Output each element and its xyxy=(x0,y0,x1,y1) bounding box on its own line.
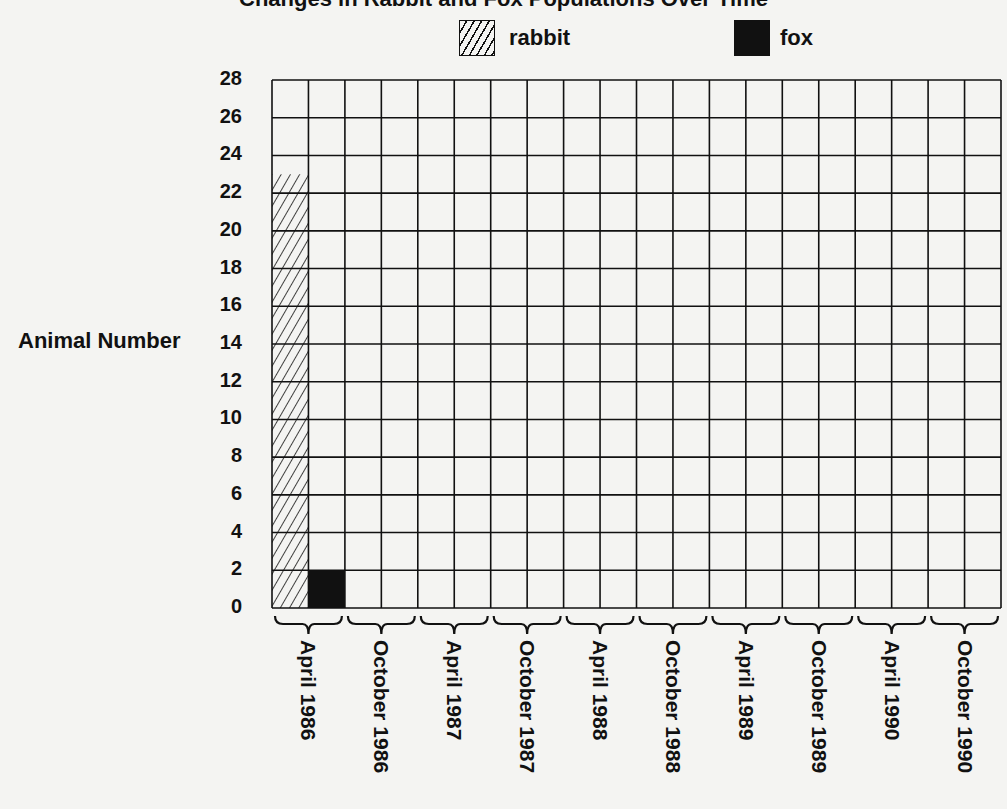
y-tick-label: 12 xyxy=(220,370,242,390)
x-tick-label: April 1989 xyxy=(734,640,758,740)
legend-fox: fox xyxy=(734,20,813,56)
x-tick-label: April 1986 xyxy=(296,640,320,740)
brace xyxy=(785,616,852,634)
brace xyxy=(567,616,634,634)
x-axis-braces xyxy=(0,612,1007,652)
x-tick-label: October 1989 xyxy=(807,640,831,773)
brace xyxy=(348,616,415,634)
x-tick-label: April 1988 xyxy=(588,640,612,740)
chart-title-cutoff: Changes in Rabbit and Fox Populations Ov… xyxy=(0,0,1007,12)
brace xyxy=(712,616,779,634)
y-tick-label: 10 xyxy=(220,407,242,427)
grid-lines xyxy=(272,80,1001,608)
hatched-swatch-icon xyxy=(459,20,495,56)
brace xyxy=(421,616,488,634)
x-tick-label: October 1990 xyxy=(953,640,977,773)
y-tick-label: 6 xyxy=(231,483,242,503)
brace xyxy=(494,616,561,634)
x-tick-label: October 1986 xyxy=(369,640,393,773)
x-tick-label: October 1987 xyxy=(515,640,539,773)
legend-rabbit: rabbit xyxy=(459,20,570,56)
brace xyxy=(275,616,342,634)
y-tick-label: 14 xyxy=(220,332,242,352)
y-tick-label: 18 xyxy=(220,257,242,277)
x-tick-label: October 1988 xyxy=(661,640,685,773)
y-tick-label: 16 xyxy=(220,294,242,314)
bar-fox xyxy=(308,570,344,608)
plot-area xyxy=(271,79,1002,609)
y-tick-label: 4 xyxy=(231,521,242,541)
brace xyxy=(858,616,925,634)
y-tick-label: 26 xyxy=(220,106,242,126)
brace xyxy=(931,616,998,634)
brace xyxy=(640,616,707,634)
legend-label-rabbit: rabbit xyxy=(509,25,570,51)
x-tick-label: April 1990 xyxy=(880,640,904,740)
x-tick-label: April 1987 xyxy=(442,640,466,740)
y-tick-label: 8 xyxy=(231,445,242,465)
bar-rabbit xyxy=(272,174,308,608)
y-tick-label: 24 xyxy=(220,143,242,163)
solid-swatch-icon xyxy=(734,20,770,56)
y-tick-label: 20 xyxy=(220,219,242,239)
y-tick-label: 28 xyxy=(220,68,242,88)
y-axis-label: Animal Number xyxy=(18,328,181,354)
legend-label-fox: fox xyxy=(780,25,813,51)
y-tick-label: 22 xyxy=(220,181,242,201)
y-tick-label: 2 xyxy=(231,558,242,578)
